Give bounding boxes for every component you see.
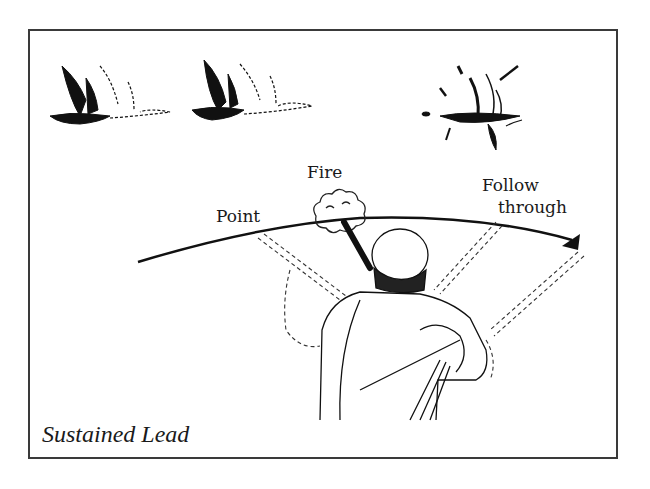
label-point: Point <box>216 207 260 225</box>
shotgun-barrel <box>344 222 370 268</box>
hunter-figure <box>320 229 487 420</box>
label-through: through <box>498 198 567 216</box>
smoke-icon <box>314 189 365 232</box>
label-fire: Fire <box>307 163 342 181</box>
illustration <box>0 0 650 489</box>
bird-hit-burst-icon <box>422 66 522 150</box>
figure-caption: Sustained Lead <box>42 421 189 448</box>
bird-icon <box>50 66 170 124</box>
bird-icon <box>192 60 312 120</box>
arrowhead-icon <box>562 234 580 250</box>
label-follow: Follow <box>482 176 539 194</box>
